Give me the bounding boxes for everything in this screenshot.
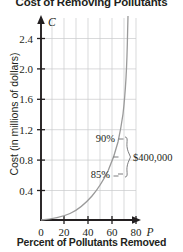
plot-area: 2.4 2.0 1.6 1.2 0.8 0.4 0 20 40 60 80 C …: [0, 0, 183, 252]
y-tick-label-0.4: 0.4: [19, 185, 33, 197]
y-tick-label-0.8: 0.8: [19, 154, 33, 166]
x-tick-label-20: 20: [59, 226, 71, 238]
y-tick-label-1.6: 1.6: [19, 93, 33, 105]
chart-figure: Cost of Removing Pollutants Cost (in mil…: [0, 0, 183, 252]
annotation-85-percent: 85%: [91, 169, 111, 180]
horizontal-gridlines: [41, 39, 136, 191]
x-axis-variable: P: [145, 226, 153, 238]
y-axis-variable: C: [48, 16, 56, 28]
curve-point-markers: [114, 139, 124, 176]
x-tick-label-0: 0: [38, 226, 44, 238]
y-tick-label-2.4: 2.4: [19, 33, 33, 45]
x-tick-label-80: 80: [131, 226, 143, 238]
y-tick-label-2.0: 2.0: [19, 63, 33, 75]
x-tick-label-60: 60: [107, 226, 119, 238]
y-axis: [37, 15, 45, 220]
cost-curve: [41, 16, 128, 220]
annotation-90-percent: 90%: [96, 133, 116, 144]
annotation-cost-difference: $400,000: [133, 152, 172, 163]
cost-difference-brace: [125, 137, 131, 177]
y-tick-label-1.2: 1.2: [19, 124, 33, 136]
x-tick-label-40: 40: [83, 226, 95, 238]
vertical-gridlines: [52, 18, 136, 220]
